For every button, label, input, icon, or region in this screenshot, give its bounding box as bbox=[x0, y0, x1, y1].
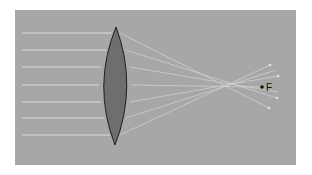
ray-end-marker bbox=[268, 107, 271, 110]
focal-point-label: F bbox=[266, 82, 272, 93]
ray-end-marker bbox=[277, 75, 280, 78]
ray-end-marker bbox=[269, 64, 272, 67]
lens-diagram: F bbox=[0, 0, 312, 175]
focal-point-dot bbox=[260, 85, 264, 89]
ray-end-marker bbox=[276, 97, 279, 100]
